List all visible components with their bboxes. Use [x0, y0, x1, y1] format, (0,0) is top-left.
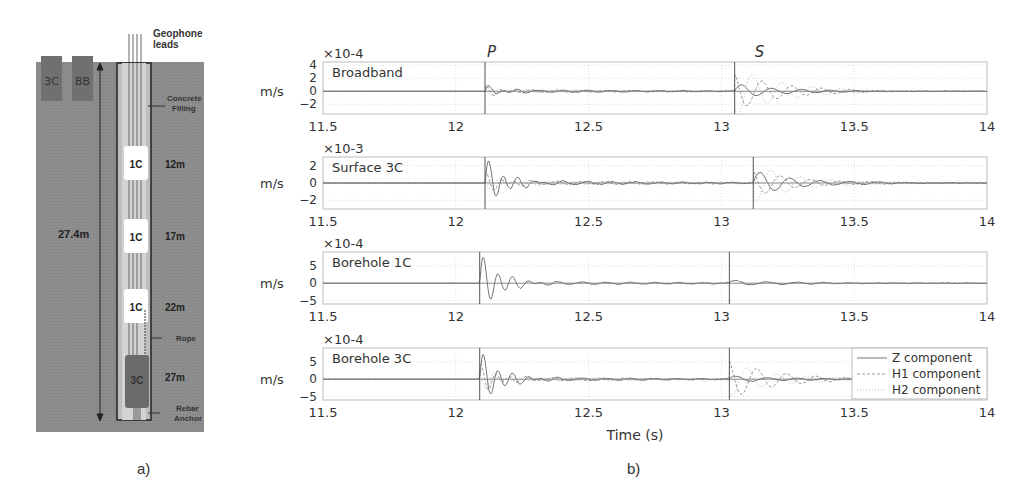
ytick-label: 0	[309, 372, 317, 386]
ytick-label: −5	[299, 294, 317, 308]
rebar-anchor	[133, 408, 141, 420]
rebar-anchor-label-2: Anchor	[174, 414, 202, 423]
legend: Z componentH1 componentH2 component	[852, 348, 987, 399]
concrete-filling-label: Concrete	[167, 94, 202, 103]
ytick-label: 0	[309, 84, 317, 98]
subplot-title: Borehole 3C	[332, 351, 411, 366]
subplot-borehole-1c: −50511.51212.51313.514×10-4m/sBorehole 1…	[260, 236, 995, 324]
geophone-leads-label-2: leads	[153, 39, 179, 50]
panel-b-caption: b)	[627, 460, 640, 477]
subplot-surface-3c: −20211.51212.51313.514×10-3m/sSurface 3C	[260, 141, 995, 229]
ytick-label: 5	[309, 355, 317, 369]
scale-label: ×10-3	[323, 141, 363, 156]
ylabel: m/s	[260, 276, 284, 291]
ytick-label: 2	[309, 71, 317, 85]
subplot-title: Borehole 1C	[332, 255, 411, 270]
xtick-label: 11.5	[309, 309, 338, 324]
scale-label: ×10-4	[323, 332, 363, 347]
seismogram-panel: −202411.51212.51313.514×10-4m/sBroadband…	[240, 0, 1034, 502]
xtick-label: 12	[448, 214, 465, 229]
scale-label: ×10-4	[323, 236, 363, 251]
rope-label: Rope	[176, 334, 197, 343]
seismogram-chart: −202411.51212.51313.514×10-4m/sBroadband…	[240, 0, 1034, 502]
xtick-label: 14	[979, 309, 996, 324]
depth-27m-label: 27m	[165, 372, 185, 383]
xtick-label: 13.5	[840, 309, 869, 324]
xtick-label: 12	[448, 405, 465, 420]
ylabel: m/s	[260, 176, 284, 191]
sensor-1c-17m-label: 1C	[130, 232, 143, 243]
ytick-label: 0	[309, 176, 317, 190]
ytick-label: −5	[299, 390, 317, 404]
legend-entry: H2 component	[892, 383, 981, 397]
xtick-label: 12	[448, 309, 465, 324]
xtick-label: 11.5	[309, 214, 338, 229]
xtick-label: 12.5	[574, 309, 603, 324]
xtick-label: 13	[713, 119, 730, 134]
xtick-label: 14	[979, 119, 996, 134]
panel-a-caption: a)	[137, 460, 150, 477]
legend-entry: Z component	[892, 351, 972, 365]
ytick-label: −2	[299, 193, 317, 207]
legend-entry: H1 component	[892, 367, 981, 381]
xtick-label: 14	[979, 405, 996, 420]
concrete-filling-label-2: Filling	[172, 104, 196, 113]
ylabel: m/s	[260, 84, 284, 99]
ytick-label: −2	[299, 97, 317, 111]
xtick-label: 13	[713, 405, 730, 420]
geophone-leads-label: Geophone	[153, 28, 203, 39]
subplot-title: Broadband	[332, 65, 403, 80]
ylabel: m/s	[260, 372, 284, 387]
sensor-1c-22m-label: 1C	[130, 302, 143, 313]
surface-bb-label: BB	[75, 75, 90, 88]
xtick-label: 12	[448, 119, 465, 134]
depth-22m-label: 22m	[165, 302, 185, 313]
sensor-3c-27m-label: 3C	[131, 375, 144, 386]
depth-17m-label: 17m	[165, 231, 185, 242]
xtick-label: 12.5	[574, 405, 603, 420]
xtick-label: 11.5	[309, 405, 338, 420]
xtick-label: 13.5	[840, 119, 869, 134]
rebar-anchor-label: Rebar	[176, 404, 199, 413]
xtick-label: 12.5	[574, 119, 603, 134]
xtick-label: 13.5	[840, 405, 869, 420]
ytick-label: 4	[309, 58, 317, 72]
xtick-label: 12.5	[574, 214, 603, 229]
p-phase-label: P	[487, 43, 497, 61]
sensor-1c-12m-label: 1C	[130, 159, 143, 170]
xlabel: Time (s)	[606, 427, 664, 443]
ytick-label: 0	[309, 276, 317, 290]
borehole-schematic: Geophone leads 3C BB 27.4m Concrete Fill…	[0, 0, 240, 502]
xtick-label: 11.5	[309, 119, 338, 134]
ytick-label: 5	[309, 259, 317, 273]
xtick-label: 13	[713, 309, 730, 324]
borehole-diagram: Geophone leads 3C BB 27.4m Concrete Fill…	[0, 0, 240, 502]
xtick-label: 13.5	[840, 214, 869, 229]
xtick-label: 14	[979, 214, 996, 229]
subplot-broadband: −202411.51212.51313.514×10-4m/sBroadband…	[260, 43, 995, 134]
s-phase-label: S	[755, 43, 765, 61]
ytick-label: 2	[309, 159, 317, 173]
subplot-title: Surface 3C	[332, 160, 403, 175]
scale-label: ×10-4	[323, 46, 363, 61]
depth-12m-label: 12m	[165, 159, 185, 170]
xtick-label: 13	[713, 214, 730, 229]
surface-3c-label: 3C	[44, 75, 59, 88]
total-depth-label: 27.4m	[58, 228, 89, 240]
